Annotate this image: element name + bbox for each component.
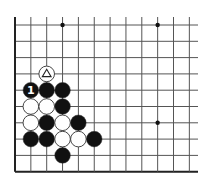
- stone-disc: [55, 115, 71, 131]
- stone-disc: [55, 131, 71, 147]
- white-stone: [23, 99, 39, 115]
- star-point: [155, 23, 159, 27]
- white-stone: [23, 115, 39, 131]
- black-stone: [39, 82, 55, 98]
- black-stone: [86, 131, 102, 147]
- black-stone: 1: [23, 82, 39, 98]
- stone-disc: [39, 82, 55, 98]
- stone-disc: [39, 131, 55, 147]
- go-board: 1: [0, 0, 211, 185]
- stone-disc: [55, 148, 71, 164]
- stone-disc: [55, 82, 71, 98]
- stone-disc: [39, 99, 55, 115]
- black-stone: [23, 131, 39, 147]
- white-stone: [39, 66, 55, 82]
- stone-disc: [55, 99, 71, 115]
- black-stone: [55, 82, 71, 98]
- stone-disc: [39, 115, 55, 131]
- stone-disc: [86, 131, 102, 147]
- white-stone: [55, 131, 71, 147]
- white-stone: [39, 99, 55, 115]
- move-number-label: 1: [27, 84, 35, 97]
- star-point: [155, 121, 159, 125]
- white-stone: [55, 115, 71, 131]
- stone-disc: [23, 99, 39, 115]
- black-stone: [39, 115, 55, 131]
- white-stone: [71, 131, 87, 147]
- black-stone: [55, 148, 71, 164]
- black-stone: [71, 115, 87, 131]
- stone-disc: [23, 131, 39, 147]
- black-stone: [39, 131, 55, 147]
- stone-disc: [71, 115, 87, 131]
- star-point: [60, 23, 64, 27]
- black-stone: [55, 99, 71, 115]
- stone-disc: [23, 115, 39, 131]
- stone-disc: [71, 131, 87, 147]
